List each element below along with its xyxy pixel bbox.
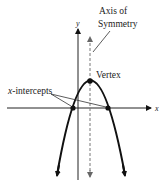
vertex-label: Vertex [96, 70, 121, 80]
parabola-left-arrow [57, 165, 59, 176]
x-intercepts-label: x-intercepts [7, 86, 53, 96]
vertex-point [87, 78, 93, 84]
parabola-right-arrow [123, 165, 125, 176]
axis-of-symmetry-label-line2: Symmetry [98, 19, 138, 29]
x-intercepts-pointer-left [51, 94, 71, 106]
y-axis-label: y [75, 19, 80, 28]
parabola-curve [57, 81, 125, 176]
x-axis-label: x [154, 104, 159, 113]
x-intercept-left [70, 105, 75, 110]
x-intercepts-label-text: -intercepts [12, 86, 52, 96]
parabola-diagram: x y Axis of Symmetry Vertex x-intercepts [0, 0, 166, 184]
axis-of-symmetry-pointer [93, 31, 110, 52]
x-intercept-right [105, 105, 110, 110]
axis-of-symmetry-label-line1: Axis of [99, 6, 128, 16]
